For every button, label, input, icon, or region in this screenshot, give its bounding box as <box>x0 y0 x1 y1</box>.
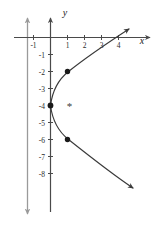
y-axis-label: y <box>62 7 68 18</box>
x-tick-label-neg1: -1 <box>30 41 36 50</box>
y-tick-label-neg7: -7 <box>39 153 45 162</box>
y-tick-label-neg5: -5 <box>39 119 45 128</box>
figure-background <box>0 0 161 227</box>
marked-point-1-neg2 <box>65 69 70 74</box>
marked-point-1-neg6 <box>65 137 70 142</box>
y-tick-label-neg8: -8 <box>39 170 45 179</box>
y-tick-label-neg2: -2 <box>39 68 45 77</box>
x-tick-label-1: 1 <box>66 41 70 50</box>
x-tick-label-4: 4 <box>117 41 121 50</box>
y-tick-label-neg4: -4 <box>39 102 45 111</box>
y-tick-label-neg3: -3 <box>39 85 45 94</box>
x-axis-label: x <box>139 35 145 46</box>
marked-point-vertex-0-neg4 <box>48 103 54 109</box>
coordinate-plane-svg: -1 1 2 3 4 -1 -2 -3 -4 -5 -6 -7 -8 y x * <box>0 0 161 227</box>
parabola-graph-figure: -1 1 2 3 4 -1 -2 -3 -4 -5 -6 -7 -8 y x * <box>0 0 161 227</box>
y-tick-label-neg1: -1 <box>39 51 45 60</box>
y-tick-label-neg6: -6 <box>39 136 45 145</box>
asterisk-marker: * <box>67 100 73 112</box>
x-tick-label-2: 2 <box>83 41 87 50</box>
